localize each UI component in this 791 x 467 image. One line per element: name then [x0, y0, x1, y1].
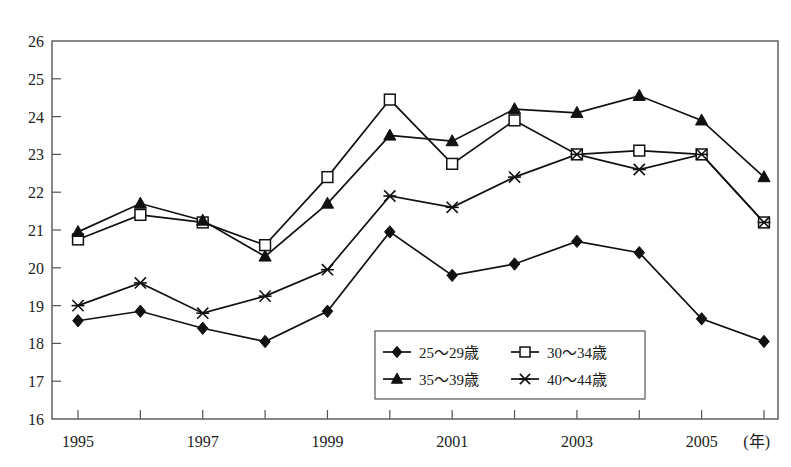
x-axis-tick-label: 2001	[436, 433, 468, 450]
data-point-marker-open-square	[520, 347, 530, 357]
legend-label: 30～34歳	[547, 345, 607, 361]
x-axis-tick-label: 1997	[187, 433, 219, 450]
y-axis-tick-label: 26	[28, 33, 44, 50]
y-axis-tick-label: 18	[28, 335, 44, 352]
legend-label: 25～29歳	[419, 345, 479, 361]
y-axis-tick-label: 22	[28, 184, 44, 201]
x-axis-unit-label: (年)	[743, 433, 770, 451]
y-axis-tick-label: 19	[28, 298, 44, 315]
data-point-marker-open-square	[509, 115, 520, 126]
x-axis-tick-label: 2005	[686, 433, 718, 450]
data-point-marker-open-square	[260, 240, 271, 251]
data-point-marker-open-square	[384, 94, 395, 105]
y-axis-tick-label: 25	[28, 71, 44, 88]
legend-box	[375, 331, 645, 399]
data-point-marker-open-square	[135, 209, 146, 220]
y-axis-tick-label: 16	[28, 411, 44, 428]
y-axis-tick-label: 20	[28, 260, 44, 277]
y-axis-tick-label: 24	[28, 109, 44, 126]
y-axis-tick-label: 23	[28, 146, 44, 163]
x-axis-tick-label: 1999	[311, 433, 343, 450]
legend-label: 35～39歳	[419, 372, 479, 388]
chart-container: (%) 1617181920212223242526 25～29歳30～34歳3…	[0, 0, 791, 467]
chart-legend: 25～29歳30～34歳35～39歳40～44歳	[375, 331, 645, 399]
legend-label: 40～44歳	[547, 372, 607, 388]
y-axis-tick-label: 21	[28, 222, 44, 239]
data-point-marker-open-square	[447, 158, 458, 169]
data-point-marker-open-square	[634, 145, 645, 156]
y-axis-tick-label: 17	[28, 373, 44, 390]
x-axis-tick-label: 1995	[62, 433, 94, 450]
data-point-marker-open-square	[322, 172, 333, 183]
x-axis-tick-label: 2003	[561, 433, 593, 450]
line-chart-plot: 1617181920212223242526 25～29歳30～34歳35～39…	[0, 0, 791, 467]
